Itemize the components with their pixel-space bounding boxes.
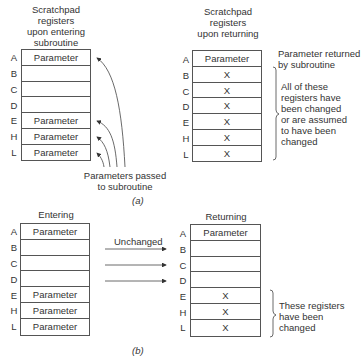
a-right-label-h: H — [181, 133, 191, 144]
b-left-label-d: D — [9, 274, 19, 285]
register-cell-h: X — [193, 130, 261, 146]
a-right-label-a: A — [181, 54, 191, 65]
register-cell-l: X — [193, 146, 261, 162]
register-cell-a: Parameter — [21, 224, 89, 240]
b-left-label-h: H — [9, 305, 19, 316]
b-right-label-e: E — [178, 291, 188, 302]
a-returned-note: Parameter returned by subroutine — [278, 48, 362, 70]
b-right-label-a: A — [178, 228, 188, 239]
register-cell-d: X — [193, 98, 261, 114]
register-cell-c: X — [193, 83, 261, 99]
register-cell-e: X — [193, 114, 261, 130]
register-cell-l: X — [191, 320, 260, 336]
a-right-label-d: D — [181, 101, 191, 112]
b-right-label-l: L — [178, 322, 188, 333]
register-cell-a: Parameter — [193, 51, 261, 67]
b-right-register-table: Parameter X X X — [190, 224, 261, 337]
b-right-title: Returning — [190, 211, 262, 222]
register-cell-d — [21, 271, 89, 287]
register-cell-c — [21, 256, 89, 272]
b-left-label-a: A — [9, 226, 19, 237]
a-right-label-b: B — [181, 70, 191, 81]
a-right-register-table: Parameter X X X X X X — [192, 50, 262, 162]
b-left-register-table: Parameter Parameter Parameter Parameter — [20, 223, 90, 336]
b-left-title: Entering — [20, 209, 92, 220]
b-right-label-h: H — [178, 307, 188, 318]
register-cell-b — [191, 241, 260, 257]
register-cell-b: X — [193, 67, 261, 83]
a-right-label-c: C — [181, 86, 191, 97]
register-cell-h: Parameter — [21, 303, 89, 319]
unchanged-label: Unchanged — [114, 236, 163, 247]
register-cell-l: Parameter — [21, 319, 89, 335]
register-cell-a: Parameter — [191, 225, 260, 241]
b-changed-note: These registers have been changed — [279, 300, 359, 333]
a-right-label-l: L — [181, 149, 191, 160]
a-changed-note: All of these registers have been changed… — [281, 81, 361, 147]
b-left-label-c: C — [9, 258, 19, 269]
a-right-label-e: E — [181, 117, 191, 128]
b-right-label-d: D — [178, 275, 188, 286]
register-cell-c — [191, 257, 260, 273]
b-right-label-b: B — [178, 244, 188, 255]
caption-b: (b) — [132, 345, 144, 356]
b-left-label-l: L — [9, 321, 19, 332]
register-cell-b — [21, 240, 89, 256]
register-cell-h: X — [191, 304, 260, 320]
register-cell-e: X — [191, 288, 260, 304]
a-right-title: Scratchpad registers upon returning — [188, 6, 268, 39]
b-left-label-b: B — [9, 242, 19, 253]
register-cell-d — [191, 272, 260, 288]
b-right-label-c: C — [178, 260, 188, 271]
a-arrow-note: Parameters passed to subroutine — [70, 170, 180, 192]
b-left-label-e: E — [9, 290, 19, 301]
caption-a: (a) — [132, 195, 144, 206]
register-cell-e: Parameter — [21, 287, 89, 303]
